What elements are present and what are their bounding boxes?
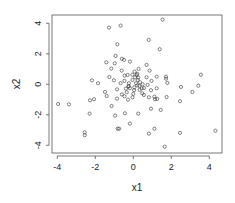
data-point bbox=[147, 96, 150, 99]
data-point bbox=[146, 83, 149, 86]
y-tick-label: 0 bbox=[33, 82, 43, 87]
data-point bbox=[113, 62, 116, 65]
data-point bbox=[114, 114, 117, 117]
data-point bbox=[96, 82, 99, 85]
data-point bbox=[92, 98, 95, 101]
data-point bbox=[123, 112, 126, 115]
scatter-plot: -4-2024 -4-2024 x1 x2 bbox=[0, 0, 235, 203]
x-tick-label: -2 bbox=[91, 162, 99, 172]
data-points bbox=[57, 18, 217, 148]
data-point bbox=[149, 89, 152, 92]
data-point bbox=[133, 70, 136, 73]
data-point bbox=[128, 122, 131, 125]
y-tick-label: 4 bbox=[33, 21, 43, 26]
data-point bbox=[163, 145, 166, 148]
y-tick-label: -4 bbox=[33, 141, 43, 149]
data-point bbox=[166, 81, 169, 84]
x-tick-label: 0 bbox=[131, 162, 136, 172]
data-point bbox=[116, 43, 119, 46]
data-point bbox=[110, 104, 113, 107]
y-axis: -4-2024 bbox=[33, 21, 49, 150]
data-point bbox=[161, 18, 164, 21]
data-point bbox=[120, 69, 123, 72]
data-point bbox=[149, 107, 152, 110]
data-point bbox=[105, 61, 108, 64]
data-point bbox=[159, 108, 162, 111]
data-point bbox=[107, 26, 110, 29]
data-point bbox=[191, 90, 194, 93]
data-point bbox=[126, 98, 129, 101]
data-point bbox=[123, 79, 126, 82]
data-point bbox=[123, 74, 126, 77]
data-point bbox=[155, 75, 158, 78]
data-point bbox=[128, 60, 131, 63]
data-point bbox=[164, 77, 167, 80]
y-tick-label: 2 bbox=[33, 51, 43, 56]
data-point bbox=[178, 131, 181, 134]
x-tick-label: 4 bbox=[207, 162, 212, 172]
x-axis-title: x1 bbox=[132, 182, 143, 193]
data-point bbox=[141, 83, 144, 86]
data-point bbox=[125, 91, 128, 94]
data-point bbox=[88, 112, 91, 115]
data-point bbox=[137, 67, 140, 70]
data-point bbox=[110, 67, 113, 70]
data-point bbox=[126, 73, 129, 76]
data-point bbox=[119, 24, 122, 27]
data-point bbox=[150, 79, 153, 82]
data-point bbox=[155, 87, 158, 90]
data-point bbox=[114, 54, 117, 57]
data-point bbox=[132, 92, 135, 95]
data-point bbox=[199, 73, 202, 76]
data-point bbox=[115, 97, 118, 100]
data-point bbox=[148, 69, 151, 72]
data-point bbox=[136, 72, 139, 75]
data-point bbox=[131, 78, 134, 81]
data-point bbox=[137, 112, 140, 115]
data-point bbox=[158, 48, 161, 51]
data-point bbox=[147, 38, 150, 41]
x-axis: -4-2024 bbox=[53, 156, 212, 172]
x-tick-label: -4 bbox=[53, 162, 61, 172]
data-point bbox=[145, 76, 148, 79]
data-point bbox=[153, 127, 156, 130]
data-point bbox=[214, 129, 217, 132]
data-point bbox=[112, 79, 115, 82]
data-point bbox=[197, 84, 200, 87]
data-point bbox=[179, 85, 182, 88]
data-point bbox=[145, 63, 148, 66]
data-point bbox=[165, 95, 168, 98]
x-tick-label: 2 bbox=[169, 162, 174, 172]
y-tick-label: -2 bbox=[33, 111, 43, 119]
data-point bbox=[57, 102, 60, 105]
data-point bbox=[131, 73, 134, 76]
data-point bbox=[156, 97, 159, 100]
data-point bbox=[123, 95, 126, 98]
data-point bbox=[119, 82, 122, 85]
data-point bbox=[88, 99, 91, 102]
data-point bbox=[131, 96, 134, 99]
data-point bbox=[108, 75, 111, 78]
data-point bbox=[103, 90, 106, 93]
data-point bbox=[147, 132, 150, 135]
data-point bbox=[105, 94, 108, 97]
data-point bbox=[178, 100, 181, 103]
data-point bbox=[115, 88, 118, 91]
data-point bbox=[90, 79, 93, 82]
y-axis-title: x2 bbox=[11, 78, 22, 89]
data-point bbox=[67, 103, 70, 106]
data-point bbox=[133, 76, 136, 79]
